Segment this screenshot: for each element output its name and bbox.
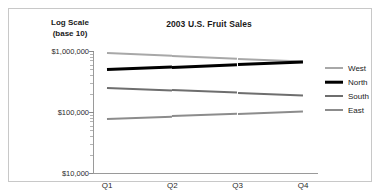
series-line-north bbox=[238, 60, 303, 65]
legend-item-east[interactable]: East bbox=[325, 103, 382, 117]
series-line-west bbox=[107, 52, 172, 57]
series-line-north bbox=[172, 63, 237, 68]
y-axis-tick-labels: $1,000,000$100,000$10,000 bbox=[9, 51, 89, 174]
series-line-north bbox=[107, 66, 172, 71]
x-tick-label: Q3 bbox=[223, 181, 253, 190]
y-axis-title: Log Scale (base 10) bbox=[27, 17, 113, 39]
legend-label: West bbox=[348, 64, 366, 73]
legend-swatch bbox=[325, 67, 343, 69]
series-line-south bbox=[172, 89, 237, 93]
series-line-east bbox=[107, 115, 172, 119]
legend-item-west[interactable]: West bbox=[325, 61, 382, 75]
x-tick-label: Q1 bbox=[92, 181, 122, 190]
series-line-east bbox=[172, 113, 237, 117]
y-axis-title-line2: (base 10) bbox=[27, 28, 113, 39]
x-axis-tick-labels: Q1Q2Q3Q4 bbox=[93, 175, 318, 193]
legend-swatch bbox=[325, 81, 343, 84]
legend-label: East bbox=[348, 106, 364, 115]
x-tick-label: Q4 bbox=[288, 181, 318, 190]
chart-legend: WestNorthSouthEast bbox=[325, 61, 382, 117]
y-tick-label: $100,000 bbox=[58, 108, 89, 117]
chart-frame: 2003 U.S. Fruit Sales Log Scale (base 10… bbox=[8, 8, 372, 182]
series-line-south bbox=[107, 87, 172, 91]
y-tick-label: $1,000,000 bbox=[51, 47, 89, 56]
x-axis-line bbox=[93, 173, 318, 174]
x-tick-label: Q2 bbox=[157, 181, 187, 190]
y-axis-title-line1: Log Scale bbox=[27, 17, 113, 28]
series-line-east bbox=[238, 110, 303, 114]
series-line-south bbox=[238, 92, 303, 96]
plot-area bbox=[93, 51, 317, 173]
legend-swatch bbox=[325, 109, 343, 111]
legend-swatch bbox=[325, 95, 343, 97]
legend-label: North bbox=[348, 78, 368, 87]
series-line-west bbox=[172, 55, 237, 60]
chart-title: 2003 U.S. Fruit Sales bbox=[119, 19, 299, 29]
legend-item-north[interactable]: North bbox=[325, 75, 382, 89]
y-tick-label: $10,000 bbox=[62, 169, 89, 178]
legend-item-south[interactable]: South bbox=[325, 89, 382, 103]
legend-label: South bbox=[348, 92, 369, 101]
